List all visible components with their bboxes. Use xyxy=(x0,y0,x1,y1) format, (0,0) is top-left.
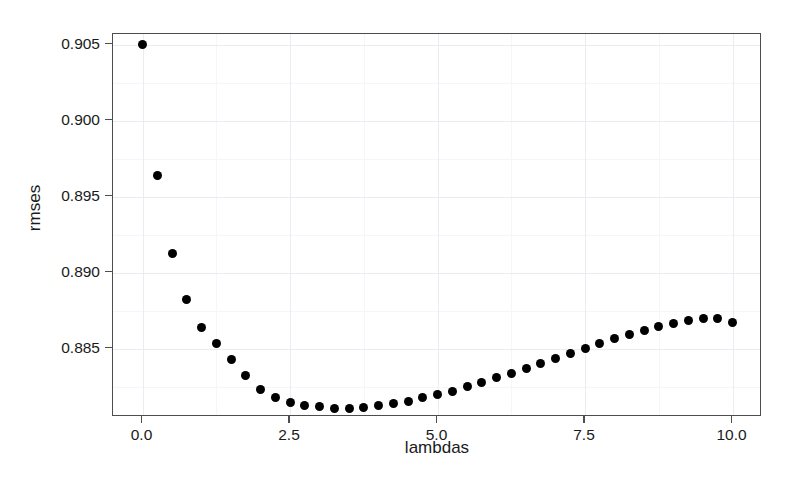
data-point xyxy=(315,402,324,411)
data-point xyxy=(640,326,649,335)
data-point xyxy=(433,390,442,399)
gridline-vertical-minor xyxy=(659,34,660,415)
gridline-horizontal-major xyxy=(113,121,760,122)
data-point xyxy=(359,403,368,412)
data-point xyxy=(330,404,339,413)
x-axis-tick xyxy=(288,416,289,423)
gridline-vertical-minor xyxy=(364,34,365,415)
gridline-horizontal-major xyxy=(113,273,760,274)
data-point xyxy=(212,339,221,348)
gridline-vertical-major xyxy=(733,34,734,415)
gridline-horizontal-minor xyxy=(113,387,760,388)
x-axis-tick xyxy=(436,416,437,423)
x-axis-tick xyxy=(583,416,584,423)
y-axis-tick xyxy=(105,119,112,120)
data-point xyxy=(581,344,590,353)
y-axis-tick xyxy=(105,271,112,272)
data-point xyxy=(595,339,604,348)
y-axis-tick-label: 0.895 xyxy=(61,187,100,205)
data-point xyxy=(654,322,663,331)
data-point xyxy=(684,316,693,325)
data-point xyxy=(168,249,177,258)
gridline-vertical-major xyxy=(290,34,291,415)
gridline-vertical-major xyxy=(438,34,439,415)
data-point xyxy=(728,318,737,327)
x-axis-title: lambdas xyxy=(112,438,762,458)
gridline-horizontal-minor xyxy=(113,235,760,236)
x-axis-tick xyxy=(731,416,732,423)
data-point xyxy=(566,349,575,358)
data-point xyxy=(227,355,236,364)
gridline-horizontal-major xyxy=(113,45,760,46)
gridline-horizontal-minor xyxy=(113,311,760,312)
data-point xyxy=(463,382,472,391)
y-axis-tick-label: 0.900 xyxy=(61,111,100,129)
y-axis-title: rmses xyxy=(18,0,52,416)
gridline-vertical-major xyxy=(143,34,144,415)
y-axis-tick-label: 0.890 xyxy=(61,263,100,281)
x-axis-tick xyxy=(141,416,142,423)
gridline-horizontal-minor xyxy=(113,159,760,160)
gridline-vertical-minor xyxy=(216,34,217,415)
y-axis-tick-label: 0.905 xyxy=(61,35,100,53)
data-point xyxy=(300,401,309,410)
plot-area xyxy=(113,34,760,415)
data-point xyxy=(522,364,531,373)
data-point xyxy=(182,295,191,304)
gridline-horizontal-major xyxy=(113,197,760,198)
y-axis-tick xyxy=(105,195,112,196)
data-point xyxy=(153,171,162,180)
data-point xyxy=(507,369,516,378)
data-point xyxy=(669,319,678,328)
data-point xyxy=(536,359,545,368)
data-point xyxy=(448,387,457,396)
data-point xyxy=(197,323,206,332)
data-point xyxy=(271,393,280,402)
data-point xyxy=(389,399,398,408)
y-axis-title-text: rmses xyxy=(25,185,45,231)
data-point xyxy=(418,393,427,402)
y-axis-tick-label: 0.885 xyxy=(61,339,100,357)
gridline-vertical-minor xyxy=(511,34,512,415)
data-point xyxy=(610,334,619,343)
plot-panel xyxy=(112,33,761,416)
data-point xyxy=(241,371,250,380)
y-axis-tick xyxy=(105,347,112,348)
data-point xyxy=(374,401,383,410)
scatter-plot-figure: rmses 0.8850.8900.8950.9000.9050.02.55.0… xyxy=(0,0,802,482)
gridline-horizontal-major xyxy=(113,349,760,350)
gridline-vertical-major xyxy=(585,34,586,415)
data-point xyxy=(138,40,147,49)
data-point xyxy=(256,385,265,394)
data-point xyxy=(404,397,413,406)
data-point xyxy=(551,354,560,363)
data-point xyxy=(492,373,501,382)
data-point xyxy=(713,314,722,323)
data-point xyxy=(345,404,354,413)
y-axis-tick xyxy=(105,43,112,44)
data-point xyxy=(625,330,634,339)
data-point xyxy=(286,398,295,407)
gridline-horizontal-minor xyxy=(113,83,760,84)
data-point xyxy=(699,314,708,323)
